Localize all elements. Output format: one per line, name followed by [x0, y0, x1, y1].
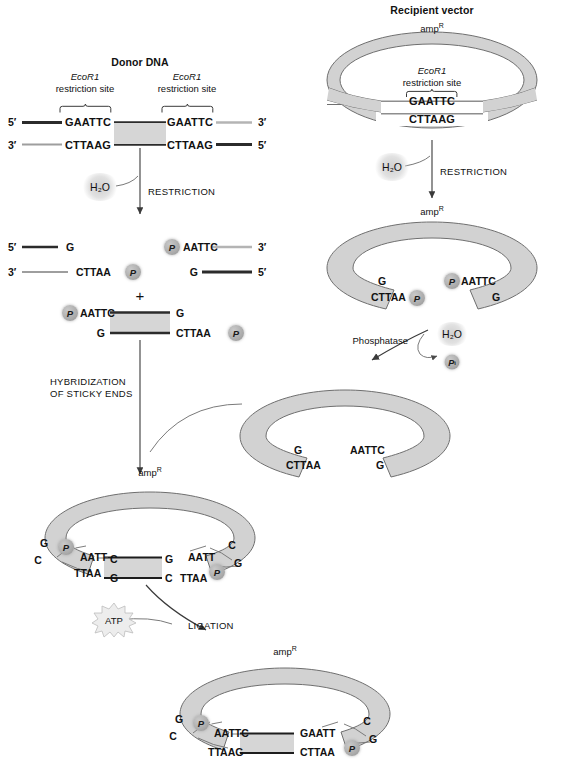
phosphate-chip-fragment-right: P [164, 239, 180, 255]
water-molecule-vector: H₂O [373, 153, 411, 181]
vector-cut-marker-amp: ampR [420, 205, 444, 217]
fragment-right-bottom-prime: 5′ [258, 267, 266, 278]
insert-top-seq: AATTC [80, 308, 115, 319]
hybrid-marker-amp: ampR [138, 466, 162, 478]
vector-top-seq: GAATTC [409, 96, 455, 107]
donor-top-seq-left: GAATTC [65, 117, 111, 128]
vector-marker-amp: ampR [420, 22, 444, 34]
fragment-right-bottom-base: G [190, 267, 198, 278]
restriction-site-text-left: restriction site [56, 83, 115, 94]
phosphatase-label: Phosphatase [353, 336, 408, 346]
water-molecule-donor: H₂O [81, 173, 119, 201]
donor-bottom-right-prime: 5′ [258, 140, 266, 151]
vector-cut-left-bottom-seq: CTTAA [371, 292, 406, 303]
donor-top-left-prime: 5′ [8, 117, 16, 128]
fragment-left-bottom-prime: 3′ [8, 267, 16, 278]
hybrid-right-inner-top: AATT [188, 552, 215, 563]
insert-top-right-base: G [176, 308, 184, 319]
vector-cut-left-top-base: G [378, 276, 386, 287]
water-label-phosphatase: H₂O [442, 328, 462, 340]
ecor1-name-right: EcoR1 [173, 71, 202, 82]
vector-marker-text: amp [420, 23, 438, 34]
donor-top-right-prime: 3′ [258, 117, 266, 128]
hybrid-left-inner-bottom-end: G [110, 573, 118, 584]
water-molecule-phosphatase: H₂O [435, 322, 469, 346]
insert-bottom-seq: CTTAA [176, 328, 211, 339]
vector-marker-sup: R [439, 22, 444, 29]
donor-bottom-seq-left: CTTAAG [65, 140, 111, 151]
vector-cut-right-bottom-base: G [492, 292, 500, 303]
ligated-marker-text: amp [273, 646, 291, 657]
donor-fragments-strands [22, 247, 252, 474]
hybrid-insert-right-top: G [165, 554, 173, 565]
insert-bottom-left-base: G [97, 328, 105, 339]
donor-site-left-label: EcoR1 restriction site [56, 71, 115, 94]
hybrid-right-outer-top: C [228, 540, 236, 551]
vector-dephos-right-bottom-base: G [376, 460, 384, 471]
fragment-left-bottom-seq: CTTAA [76, 267, 111, 278]
recipient-vector-title: Recipient vector [390, 5, 473, 16]
hybrid-left-inner-top-end: C [110, 554, 118, 565]
vector-dephosphorylated-ring [240, 390, 450, 477]
atp-label: ATP [105, 615, 123, 626]
vector-restriction-step-label: RESTRICTION [440, 167, 507, 177]
donor-dna-duplex [22, 104, 252, 214]
hybrid-left-inner-bottom: TTAA [74, 568, 101, 579]
figure-canvas: Donor DNA EcoR1 restriction site EcoR1 r… [0, 0, 562, 762]
ligated-plasmid-ring [180, 668, 390, 753]
ligated-marker-amp: ampR [273, 645, 297, 657]
donor-restriction-step-label: RESTRICTION [148, 187, 215, 197]
pi-subscript: i [454, 359, 456, 365]
fragment-left-top-prime: 5′ [8, 242, 16, 253]
vector-site-label: EcoR1 restriction site [403, 65, 462, 88]
fragment-left-top-base: G [66, 242, 74, 253]
ligated-right-bottom-seq: CTTAA [300, 747, 335, 758]
vector-cut-marker-text: amp [420, 206, 438, 217]
phosphate-chip-ligated-right: P [344, 740, 360, 756]
ecor1-name-left: EcoR1 [71, 71, 100, 82]
ligated-right-top-seq: GAATT [300, 728, 335, 739]
donor-top-seq-right: GAATTC [167, 117, 213, 128]
inorganic-phosphate-chip: Pi [445, 355, 460, 370]
ligated-marker-sup: R [292, 645, 297, 652]
phosphate-chip-fragment-left: P [125, 264, 141, 280]
vector-cut-right-top-seq: AATTC [461, 276, 496, 287]
hybridization-step-label: HYBRIDIZATION OF STICKY ENDS [50, 376, 133, 400]
hybrid-left-inner-top: AATT [80, 552, 107, 563]
water-label-donor: H₂O [90, 181, 110, 193]
phosphate-chip-vector-cut-right: P [444, 273, 460, 289]
hybrid-marker-text: amp [138, 467, 156, 478]
hybridized-plasmid-ring [45, 492, 255, 630]
fragment-right-top-prime: 3′ [258, 242, 266, 253]
ligated-left-bottom-seq: TTAAG [208, 747, 243, 758]
phosphate-chip-vector-cut-left: P [409, 290, 425, 306]
ligation-step-label: LIGATION [188, 621, 234, 631]
ligated-left-outer-bottom: C [169, 731, 177, 742]
ecor1-name-vector: EcoR1 [418, 65, 447, 76]
donor-bottom-left-prime: 3′ [8, 140, 16, 151]
restriction-site-text-right: restriction site [158, 83, 217, 94]
donor-dna-title: Donor DNA [111, 57, 168, 68]
ligated-right-outer-top: C [363, 716, 371, 727]
hybrid-insert-right-bottom: C [165, 573, 173, 584]
hybridization-line1: HYBRIDIZATION [50, 376, 126, 387]
ligated-right-outer-bottom: G [369, 734, 377, 745]
vector-dephos-left-top-base: G [294, 445, 302, 456]
hybrid-right-outer-bottom: G [234, 558, 242, 569]
hybrid-marker-sup: R [157, 466, 162, 473]
vector-bottom-seq: CTTAAG [409, 114, 455, 125]
plus-sign: + [136, 288, 145, 303]
donor-bottom-seq-right: CTTAAG [167, 140, 213, 151]
hybrid-right-inner-bottom: TTAA [180, 573, 207, 584]
phosphate-chip-insert-bottom: P [228, 325, 244, 341]
phosphate-chip-ligated-left: P [193, 715, 209, 731]
vector-dephos-left-bottom-seq: CTTAA [286, 460, 321, 471]
donor-site-right-label: EcoR1 restriction site [158, 71, 217, 94]
restriction-site-text-vector: restriction site [403, 77, 462, 88]
atp-molecule: ATP [91, 602, 137, 638]
ligated-left-top-seq: AATTC [214, 728, 249, 739]
hybrid-left-outer-bottom: C [34, 555, 42, 566]
fragment-right-top-seq: AATTC [183, 242, 218, 253]
water-label-vector: H₂O [382, 161, 402, 173]
hybridization-line2: OF STICKY ENDS [50, 388, 133, 399]
